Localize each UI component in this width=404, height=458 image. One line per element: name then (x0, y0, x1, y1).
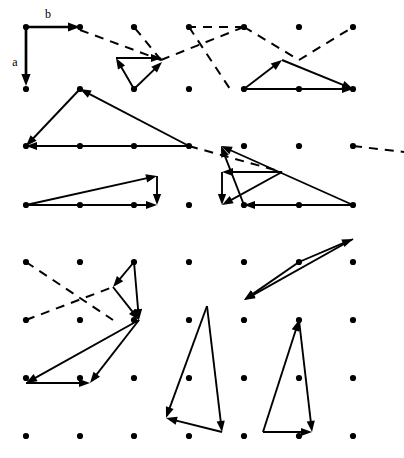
triangle-edge-vector (85, 92, 189, 146)
lattice-dot (296, 375, 302, 381)
dashed-vector (299, 27, 353, 60)
lattice-figure: b a (0, 0, 404, 458)
triangle-edge-vector (93, 320, 139, 379)
lattice-dot (186, 317, 192, 323)
dashed-vector (189, 146, 282, 172)
lattice-dot (186, 202, 192, 208)
triangle-edge-vector (26, 177, 152, 205)
arrow-head (244, 290, 255, 300)
triangle-edge-vector (263, 325, 297, 432)
dashed-vector (26, 262, 113, 320)
triangle-edge-vector (223, 151, 244, 205)
lattice-dot (77, 433, 83, 439)
arrow-head (301, 428, 312, 436)
lattice-dot (23, 433, 29, 439)
dashed-vector (353, 146, 404, 152)
lattice-dot (296, 143, 302, 149)
lattice-dot (350, 375, 356, 381)
basis-label-a: a (12, 55, 18, 69)
triangle-edge-vector (207, 306, 221, 427)
triangle-edge-vector (282, 60, 348, 87)
vector-triangle-t5-right-mid (221, 146, 353, 209)
triangle-edge-vector (30, 89, 80, 142)
lattice-figure-canvas: b a (0, 0, 404, 458)
vector-triangle-t6-right-low (218, 168, 282, 205)
lattice-dot (241, 375, 247, 381)
triangle-edge-vector (31, 320, 139, 380)
lattice-dot (77, 259, 83, 265)
lattice-dot (241, 317, 247, 323)
arrow-head (80, 89, 92, 98)
vector-triangle-t10-right-mid-lower (244, 239, 353, 300)
lattice-dot (186, 86, 192, 92)
triangle-edge-vector (226, 148, 353, 205)
triangle-edge-vector (249, 262, 299, 297)
lattice-dot (131, 433, 137, 439)
arrow-head (222, 168, 233, 176)
dashed-vector (244, 27, 299, 60)
triangle-edge-vector (249, 239, 353, 297)
dashed-vector-layer (26, 27, 404, 320)
basis-vector-layer (21, 22, 80, 86)
arrow-head (244, 201, 255, 209)
arrow-head (307, 421, 315, 432)
lattice-dot (23, 86, 29, 92)
lattice-dot (350, 433, 356, 439)
lattice-dot (350, 24, 356, 30)
vector-triangle-t9-mid-lower (166, 306, 225, 432)
lattice-dot (296, 24, 302, 30)
lattice-dot (241, 433, 247, 439)
arrow-head (116, 58, 125, 70)
triangle-edge-vector (299, 241, 348, 262)
vector-triangle-t1-upper-left (26, 89, 189, 150)
lattice-dot (131, 375, 137, 381)
arrow-head (145, 174, 157, 182)
arrow-head (79, 379, 90, 387)
lattice-dot (23, 375, 29, 381)
lattice-dot (241, 143, 247, 149)
arrow-head (166, 406, 174, 418)
arrow-head (146, 201, 157, 209)
arrow-head (153, 194, 161, 205)
lattice-dot (186, 375, 192, 381)
triangle-edge-vector (134, 262, 139, 315)
lattice-dot (77, 317, 83, 323)
basis-label-b: b (45, 7, 51, 21)
lattice-dot (241, 259, 247, 265)
lattice-dot (186, 259, 192, 265)
triangle-edge-vector (244, 63, 278, 89)
triangle-edge-vector (171, 419, 222, 432)
vector-triangle-t3-left-low (26, 174, 161, 209)
dashed-vector (161, 27, 244, 60)
triangle-edge-vector (227, 172, 282, 202)
vector-triangle-t7-lower-left-upper (113, 262, 142, 320)
arrow-head (166, 417, 178, 425)
vector-triangle-t11-right-lower (263, 320, 315, 436)
axis-label-layer: b a (12, 7, 51, 69)
arrow-head (21, 74, 30, 86)
dashed-vector (189, 27, 230, 89)
lattice-dot (350, 317, 356, 323)
vector-triangle-t4-right-upper (244, 60, 353, 93)
lattice-dot (350, 259, 356, 265)
triangle-edge-vector (299, 320, 311, 427)
lattice-dot (186, 433, 192, 439)
arrow-head (68, 22, 80, 31)
vector-triangle-t2-upper-mid (116, 54, 162, 89)
